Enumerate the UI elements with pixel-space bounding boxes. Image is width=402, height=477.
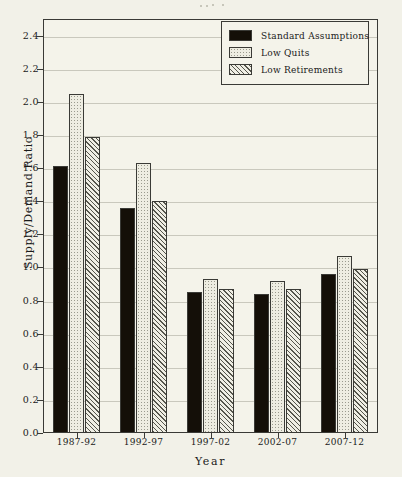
bar-1987-92-standard-assumptions bbox=[53, 166, 68, 433]
x-tick-mark bbox=[211, 433, 212, 438]
legend-swatch-standard-assumptions bbox=[229, 30, 252, 41]
legend-item-low-quits: Low Quits bbox=[229, 44, 361, 61]
y-tick-label: 2.2 bbox=[5, 63, 39, 74]
y-tick-label: 0.6 bbox=[5, 328, 39, 339]
x-tick-mark bbox=[77, 433, 78, 438]
y-tick-label: 1.2 bbox=[5, 228, 39, 239]
scan-artifact bbox=[200, 5, 202, 7]
bar-chart-figure: Supply/Demand Ratio 0.00.20.40.60.81.01.… bbox=[0, 0, 402, 477]
y-tick-label: 0.8 bbox=[5, 295, 39, 306]
y-tick-label: 0.2 bbox=[5, 394, 39, 405]
legend-item-standard-assumptions: Standard Assumptions bbox=[229, 27, 361, 44]
y-tick-label: 1.8 bbox=[5, 129, 39, 140]
bar-1997-02-low-quits bbox=[203, 279, 218, 433]
legend-swatch-low-quits bbox=[229, 47, 252, 58]
bar-1987-92-low-retirements bbox=[85, 137, 100, 433]
y-tick-label: 2.4 bbox=[5, 30, 39, 41]
x-axis-title: Year bbox=[43, 455, 378, 468]
chart-legend: Standard Assumptions Low Quits Low Retir… bbox=[221, 21, 369, 85]
scan-artifact bbox=[206, 5, 208, 7]
legend-label-low-retirements: Low Retirements bbox=[261, 65, 343, 75]
y-tick-label: 1.6 bbox=[5, 162, 39, 173]
y-tick-label: 2.0 bbox=[5, 96, 39, 107]
x-tick-label: 2007-12 bbox=[305, 437, 385, 447]
bar-2007-12-standard-assumptions bbox=[321, 274, 336, 433]
legend-item-low-retirements: Low Retirements bbox=[229, 61, 361, 78]
scan-artifact bbox=[212, 4, 214, 6]
x-tick-mark bbox=[144, 433, 145, 438]
bar-1992-97-low-retirements bbox=[152, 201, 167, 433]
bar-2007-12-low-quits bbox=[337, 256, 352, 433]
legend-label-low-quits: Low Quits bbox=[261, 48, 310, 58]
bar-1997-02-low-retirements bbox=[219, 289, 234, 433]
legend-label-standard-assumptions: Standard Assumptions bbox=[261, 31, 369, 41]
bar-2002-07-low-retirements bbox=[286, 289, 301, 433]
y-tick-label: 0.4 bbox=[5, 361, 39, 372]
bar-1992-97-low-quits bbox=[136, 163, 151, 433]
y-tick-label: 1.0 bbox=[5, 261, 39, 272]
legend-swatch-low-retirements bbox=[229, 64, 252, 75]
y-tick-mark bbox=[37, 433, 43, 434]
x-tick-mark bbox=[345, 433, 346, 438]
y-tick-label: 0.0 bbox=[5, 427, 39, 438]
bar-2007-12-low-retirements bbox=[353, 269, 368, 433]
x-tick-mark bbox=[278, 433, 279, 438]
bar-1987-92-low-quits bbox=[69, 94, 84, 433]
bar-2002-07-low-quits bbox=[270, 281, 285, 433]
y-tick-label: 1.4 bbox=[5, 195, 39, 206]
bar-1997-02-standard-assumptions bbox=[187, 292, 202, 433]
bar-2002-07-standard-assumptions bbox=[254, 294, 269, 433]
scan-artifact bbox=[222, 4, 224, 6]
bar-1992-97-standard-assumptions bbox=[120, 208, 135, 433]
